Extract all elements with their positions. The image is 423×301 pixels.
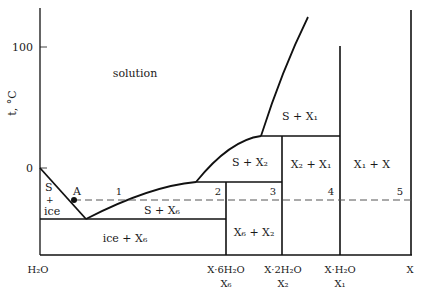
region-s-x6: S + X₆ (144, 204, 181, 217)
point-label-4: 4 (328, 186, 334, 197)
x-label-x1-symbol: X₁ (334, 278, 345, 289)
point-label-a: A (72, 185, 82, 198)
region-x2-x1: X₂ + X₁ (291, 158, 332, 171)
x-label-x6-formula: X·6H₂O (207, 264, 245, 275)
point-label-1: 1 (116, 186, 122, 197)
x-label-x6-symbol: X₆ (220, 278, 231, 289)
tick-label-0: 0 (26, 162, 33, 175)
point-label-3: 3 (270, 186, 276, 197)
region-s-ice-ice: ice (44, 205, 60, 218)
phase-diagram: 100 0 t, °C H₂O X·6H₂O X₆ X·2H₂O X₂ X·H₂… (0, 0, 423, 301)
x-label-x1-formula: X·H₂O (324, 264, 355, 275)
x-label-x2-symbol: X₂ (277, 278, 288, 289)
point-label-2: 2 (215, 186, 221, 197)
point-label-5: 5 (397, 186, 403, 197)
y-axis-label: t, °C (6, 90, 19, 115)
region-x6-x2: X₆ + X₂ (234, 226, 275, 239)
region-s-ice-plus: + (46, 195, 54, 205)
region-ice-x6: ice + X₆ (103, 232, 148, 245)
region-s-x2: S + X₂ (232, 156, 268, 169)
x-label-h2o: H₂O (28, 264, 49, 275)
tick-label-100: 100 (12, 41, 33, 54)
region-x1-x: X₁ + X (354, 158, 390, 171)
region-s-x1: S + X₁ (282, 110, 318, 123)
region-solution: solution (113, 67, 158, 80)
region-s-ice-s: S (45, 181, 53, 194)
x-label-x: X (406, 264, 414, 275)
x-label-x2-formula: X·2H₂O (264, 264, 302, 275)
